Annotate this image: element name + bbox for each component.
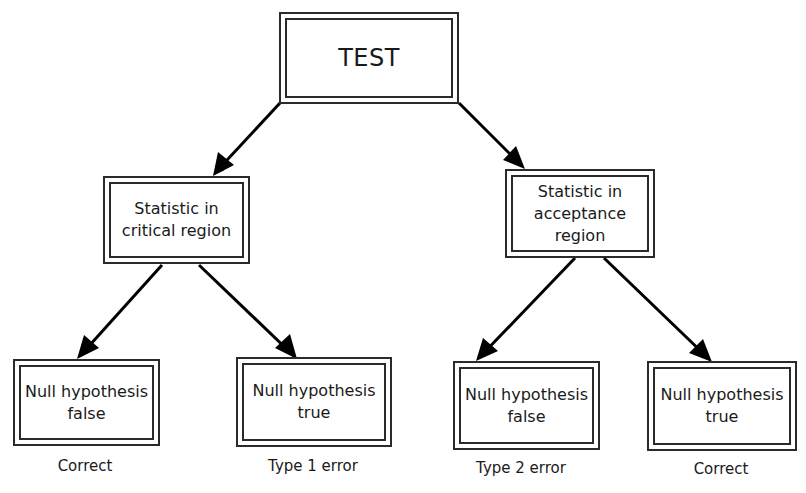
test-label: TEST [338, 47, 400, 69]
arrow-acceptance-to-acc-true [604, 258, 709, 359]
null-false-acceptance-label: Null hypothesis false [465, 384, 588, 428]
arrowhead-icon [275, 334, 297, 359]
null-false-acceptance-node: Null hypothesis false [453, 361, 600, 450]
null-false-critical-label: Null hypothesis false [25, 381, 148, 425]
null-true-acceptance-label: Null hypothesis true [660, 384, 783, 428]
null-true-acceptance-node: Null hypothesis true [647, 361, 797, 451]
outcome-correct-1: Correct [40, 457, 130, 475]
null-true-critical-label: Null hypothesis true [252, 380, 375, 424]
outcome-correct-2: Correct [676, 460, 766, 478]
test-node: TEST [279, 12, 459, 104]
arrow-acceptance-to-acc-false [479, 258, 575, 358]
outcome-type1-error: Type 1 error [258, 457, 368, 475]
critical-region-label: Statistic in critical region [122, 198, 231, 242]
null-false-critical-node: Null hypothesis false [13, 359, 160, 446]
acceptance-region-node: Statistic in acceptance region [505, 169, 655, 258]
null-true-critical-node: Null hypothesis true [236, 357, 392, 447]
critical-region-node: Statistic in critical region [103, 176, 250, 264]
acceptance-region-label: Statistic in acceptance region [534, 181, 626, 247]
outcome-type2-error: Type 2 error [466, 459, 576, 477]
arrow-critical-to-crit-true [199, 265, 294, 356]
